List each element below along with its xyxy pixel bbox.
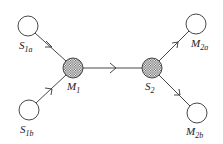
label-s2: S2 <box>145 81 155 95</box>
label-s1b: S1b <box>20 124 34 138</box>
edge-s2-m2a <box>159 31 189 61</box>
diagram-graphic <box>0 0 223 144</box>
edge-s2-m2b <box>159 75 190 106</box>
node-s2 <box>142 58 162 78</box>
arrow-icon <box>45 41 52 47</box>
node-m2b <box>187 103 207 123</box>
arrow-icon <box>174 89 180 95</box>
label-s1a: S1a <box>19 40 33 54</box>
label-m2b: M2b <box>186 126 203 140</box>
node-m1 <box>63 58 83 78</box>
node-s1b <box>19 100 39 120</box>
label-m2a: M2a <box>191 38 208 52</box>
label-m1: M1 <box>67 81 80 95</box>
node-s1a <box>18 16 38 36</box>
node-m2a <box>186 14 206 34</box>
diagram-canvas: S1a S1b M1 S2 M2a M2b <box>0 0 223 144</box>
